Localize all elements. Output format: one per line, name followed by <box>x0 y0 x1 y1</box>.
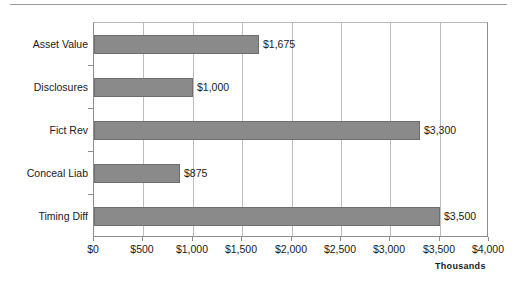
value-axis: $0$500$1,000$1,500$2,000$2,500$3,000$3,5… <box>93 237 488 267</box>
top-divider-rule <box>10 4 507 5</box>
category-axis-tick <box>88 151 93 152</box>
value-axis-tick-label: $3,000 <box>373 243 405 255</box>
value-axis-tick-label: $3,500 <box>423 243 455 255</box>
bar-value-label: $875 <box>180 164 207 183</box>
bar-value-label: $3,500 <box>440 207 476 226</box>
bar <box>94 35 259 54</box>
value-axis-tick <box>291 237 292 241</box>
value-axis-tick <box>192 237 193 241</box>
value-axis-tick <box>241 237 242 241</box>
value-axis-tick-label: $0 <box>87 243 99 255</box>
value-axis-tick <box>340 237 341 241</box>
bar <box>94 121 420 140</box>
bar-value-label: $3,300 <box>420 121 456 140</box>
bar <box>94 164 180 183</box>
value-axis-tick <box>439 237 440 241</box>
category-label: Asset Value <box>3 38 88 50</box>
category-label: Disclosures <box>3 81 88 93</box>
category-label: Timing Diff <box>3 210 88 222</box>
bar-value-label: $1,000 <box>193 78 229 97</box>
axis-units-label: Thousands <box>435 261 486 271</box>
category-axis-tick <box>88 65 93 66</box>
value-axis-tick-label: $500 <box>130 243 153 255</box>
value-axis-tick <box>142 237 143 241</box>
value-axis-tick <box>488 237 489 241</box>
category-axis-tick <box>88 108 93 109</box>
plot-area: $1,675$1,000$3,300$875$3,500 <box>93 22 488 237</box>
value-axis-tick-label: $1,500 <box>225 243 257 255</box>
bar-chart: Asset ValueDisclosuresFict RevConceal Li… <box>0 0 517 281</box>
value-axis-tick <box>93 237 94 241</box>
value-axis-tick-label: $2,500 <box>324 243 356 255</box>
bar-value-label: $1,675 <box>259 35 295 54</box>
category-label: Fict Rev <box>3 124 88 136</box>
category-axis-labels: Asset ValueDisclosuresFict RevConceal Li… <box>0 22 88 237</box>
value-axis-tick-label: $2,000 <box>275 243 307 255</box>
value-axis-tick-label: $4,000 <box>472 243 504 255</box>
category-axis-tick <box>88 194 93 195</box>
value-axis-tick <box>389 237 390 241</box>
bar <box>94 78 193 97</box>
bar <box>94 207 440 226</box>
category-label: Conceal Liab <box>3 167 88 179</box>
value-axis-tick-label: $1,000 <box>176 243 208 255</box>
